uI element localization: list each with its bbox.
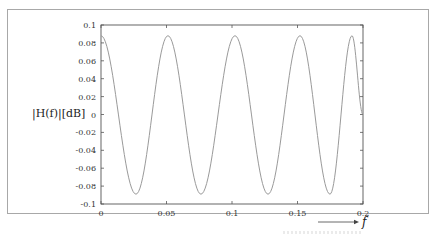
x-tick-label: 0.15 (289, 209, 307, 218)
chart: 0.10.080.060.040.020-0.02-0.04-0.06-0.08… (0, 0, 437, 241)
x-axis-arrow (318, 220, 359, 224)
arrow-head-icon (354, 220, 359, 224)
y-tick-label: 0 (91, 111, 96, 120)
x-tick-label: 0.05 (158, 209, 176, 218)
y-tick-label: 0.04 (78, 75, 96, 84)
y-tick-label: -0.02 (75, 128, 96, 137)
y-tick-label: 0.1 (83, 21, 96, 30)
y-axis-label: |H(f)|[dB] (32, 107, 85, 121)
y-tick-label: 0.06 (78, 57, 96, 66)
y-tick-label: 0.08 (78, 39, 96, 48)
y-tick-label: 0.02 (78, 93, 96, 102)
x-tick-label: 0.1 (226, 209, 239, 218)
decorative-artifact (283, 231, 363, 234)
x-tick-label: 0 (98, 209, 103, 218)
y-tick-label: -0.04 (75, 146, 96, 155)
y-tick-label: -0.1 (81, 200, 96, 209)
y-tick-label: -0.06 (75, 164, 96, 173)
y-tick-label: -0.08 (75, 182, 96, 191)
series-line (101, 36, 363, 194)
